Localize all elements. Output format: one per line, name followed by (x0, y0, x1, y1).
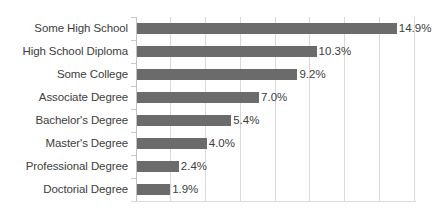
bar-row: Some College9.2% (0, 63, 438, 86)
bar-value-label: 9.2% (299, 63, 325, 86)
bar (137, 161, 179, 172)
bar-value-label: 5.4% (233, 109, 259, 132)
bar-row: High School Diploma10.3% (0, 40, 438, 63)
bar-row: Some High School14.9% (0, 17, 438, 40)
bar-row: Doctorial Degree1.9% (0, 178, 438, 201)
bar-chart-figure: Some High School14.9%High School Diploma… (0, 0, 438, 216)
value-axis-baseline (131, 201, 416, 202)
bar-value-label: 14.9% (399, 17, 432, 40)
bar (137, 115, 231, 126)
axis-tick (131, 178, 136, 179)
axis-tick (131, 132, 136, 133)
bar (137, 138, 207, 149)
chart-title (0, 0, 438, 1)
category-label: Bachelor's Degree (0, 109, 128, 132)
bar-value-label: 1.9% (172, 178, 198, 201)
axis-tick (131, 109, 136, 110)
category-label: Professional Degree (0, 155, 128, 178)
axis-tick (131, 86, 136, 87)
axis-tick (131, 155, 136, 156)
bar (137, 92, 259, 103)
category-label: Master's Degree (0, 132, 128, 155)
category-label: Some High School (0, 17, 128, 40)
bar-row: Associate Degree7.0% (0, 86, 438, 109)
axis-tick (131, 40, 136, 41)
bar-value-label: 4.0% (209, 132, 235, 155)
bar (137, 184, 170, 195)
bar-value-label: 2.4% (181, 155, 207, 178)
bar (137, 69, 297, 80)
bar-row: Professional Degree2.4% (0, 155, 438, 178)
category-label: Doctorial Degree (0, 178, 128, 201)
category-label: Associate Degree (0, 86, 128, 109)
axis-tick (131, 63, 136, 64)
category-label: Some College (0, 63, 128, 86)
bar-row: Master's Degree4.0% (0, 132, 438, 155)
bar-value-label: 10.3% (319, 40, 352, 63)
category-label: High School Diploma (0, 40, 128, 63)
axis-tick (131, 17, 136, 18)
bar-value-label: 7.0% (261, 86, 287, 109)
bar (137, 46, 317, 57)
bar (137, 23, 397, 34)
bar-row: Bachelor's Degree5.4% (0, 109, 438, 132)
